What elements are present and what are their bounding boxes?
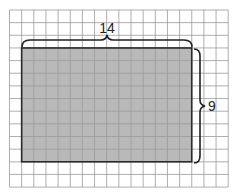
grid-diagram: 14 9 xyxy=(0,0,233,195)
width-label: 14 xyxy=(99,20,115,36)
height-label: 9 xyxy=(208,98,216,114)
